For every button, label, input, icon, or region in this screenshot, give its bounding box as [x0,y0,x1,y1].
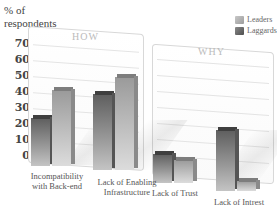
category-label-line: Lack of Enabling [82,177,172,187]
bar-side [134,76,138,168]
gridline [157,107,269,116]
legend-swatch-laggards [235,27,244,35]
gridline [157,91,269,100]
bar-laggards [216,130,235,191]
bar-face [237,181,256,191]
tick-20: 20 [8,117,30,130]
bar-leaders [174,160,193,183]
bar-face [115,77,134,170]
tick-50: 50 [8,69,30,82]
panel-title-why: WHY [198,46,225,57]
bar-leaders [115,77,134,170]
bar-side [256,180,260,189]
bar-face [93,94,112,170]
tick-70: 70 [8,37,30,50]
category-label-trust: Lack of Trust [140,188,210,198]
bar-side [71,89,75,164]
tick-60: 60 [8,53,30,66]
bar-side [193,159,197,181]
bar-face [174,160,193,183]
bar-laggards [93,94,112,170]
bar-laggards [31,118,50,166]
bar-face [31,118,50,166]
legend-item-leaders: Leaders [235,14,277,25]
gridline [33,44,139,52]
legend: Leaders Laggards [235,14,277,36]
bar-face [216,130,235,191]
legend-label-laggards: Laggards [247,26,277,35]
tick-40: 40 [8,85,30,98]
tick-0: 0 [8,149,30,162]
gridline [157,75,269,84]
panel-title-how: HOW [72,31,99,42]
bar-leaders [237,181,256,191]
category-label-interest: Lack of Intrest [204,197,274,207]
bar-leaders [52,90,71,166]
y-axis-label-line1: % of [4,4,57,17]
tick-10: 10 [8,133,30,146]
legend-item-laggards: Laggards [235,25,277,36]
gridline [157,59,269,68]
bar-face [52,90,71,166]
legend-label-leaders: Leaders [247,15,272,24]
gridline [33,60,139,68]
legend-swatch-leaders [235,16,244,24]
tick-30: 30 [8,101,30,114]
